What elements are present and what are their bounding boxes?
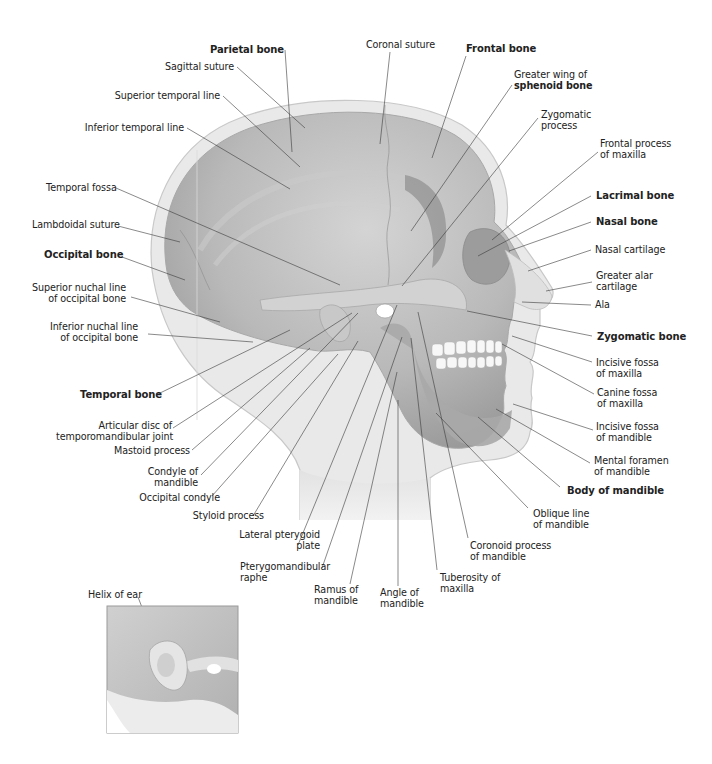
label-frontal-bone: Frontal bone — [466, 44, 546, 55]
leader-nasal-cartilage — [528, 250, 591, 271]
label-occipital-bone: Occipital bone — [44, 250, 116, 261]
label-parietal-bone: Parietal bone — [204, 45, 284, 56]
label-coronoid-process: Coronoid process of mandible — [470, 541, 560, 562]
head-illustration — [0, 0, 712, 764]
label-greater-alar-cartilage: Greater alar cartilage — [596, 271, 666, 292]
label-sagittal-suture: Sagittal suture — [152, 62, 234, 73]
label-zygomatic-process: Zygomatic process — [541, 110, 601, 131]
anatomy-figure: Parietal boneSagittal sutureSuperior tem… — [0, 0, 712, 764]
label-inferior-temporal-line: Inferior temporal line — [62, 123, 184, 134]
label-superior-temporal-line: Superior temporal line — [100, 91, 220, 102]
label-canine-fossa-maxilla: Canine fossa of maxilla — [597, 388, 673, 409]
leader-frontal-process-maxilla — [492, 152, 598, 240]
label-mental-foramen: Mental foramen of mandible — [594, 456, 682, 477]
label-articular-disc: Articular disc of temporomandibular join… — [56, 421, 172, 442]
label-angle-of-mandible: Angle of mandible — [380, 588, 432, 609]
leader-nasal-bone — [509, 222, 591, 251]
label-mastoid-process: Mastoid process — [112, 446, 190, 457]
label-styloid-process: Styloid process — [184, 511, 264, 522]
label-lateral-pterygoid-plate: Lateral pterygoid plate — [236, 530, 320, 551]
label-temporal-bone: Temporal bone — [80, 390, 152, 401]
label-inferior-nuchal-line: Inferior nuchal line of occipital bone — [30, 322, 138, 343]
label-superior-nuchal-line: Superior nuchal line of occipital bone — [18, 283, 126, 304]
label-greater-wing-sphenoid: Greater wing of sphenoid bone — [514, 70, 604, 91]
label-oblique-line: Oblique line of mandible — [533, 509, 603, 530]
label-ramus-of-mandible: Ramus of mandible — [314, 585, 370, 606]
label-incisive-fossa-mandible: Incisive fossa of mandible — [596, 422, 676, 443]
label-helix-of-ear: Helix of ear — [88, 590, 152, 601]
label-nasal-bone: Nasal bone — [596, 217, 668, 228]
label-bold-part: sphenoid bone — [514, 80, 592, 91]
label-condyle-of-mandible: Condyle of mandible — [144, 467, 198, 488]
label-tuberosity-of-maxilla: Tuberosity of maxilla — [440, 573, 510, 594]
ear-inset-illustration — [107, 606, 238, 733]
label-lacrimal-bone: Lacrimal bone — [596, 191, 680, 202]
label-body-of-mandible: Body of mandible — [567, 486, 677, 497]
label-zygomatic-bone: Zygomatic bone — [597, 332, 697, 343]
label-incisive-fossa-maxilla: Incisive fossa of maxilla — [596, 358, 676, 379]
label-frontal-process-maxilla: Frontal process of maxilla — [600, 139, 682, 160]
label-occipital-condyle: Occipital condyle — [132, 493, 220, 504]
label-coronal-suture: Coronal suture — [366, 40, 446, 51]
label-nasal-cartilage: Nasal cartilage — [595, 245, 679, 256]
label-lambdoidal-suture: Lambdoidal suture — [32, 220, 116, 231]
label-temporal-fossa: Temporal fossa — [46, 183, 112, 194]
label-ala: Ala — [595, 300, 625, 311]
leader-greater-alar-cartilage — [546, 282, 592, 291]
label-pterygomandibular-raphe: Pterygomandibular raphe — [240, 562, 334, 583]
